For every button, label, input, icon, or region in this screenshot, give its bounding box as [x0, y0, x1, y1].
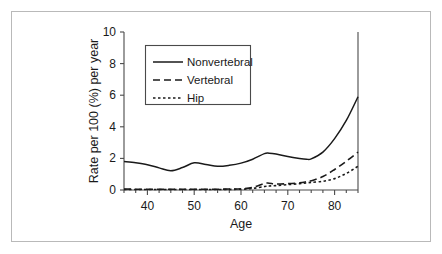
- figure-root: 0246810 4050607080 Rate per 100 (%) per …: [0, 0, 442, 254]
- series-line-hip: [124, 166, 358, 189]
- y-tick-label: 10: [103, 25, 117, 39]
- line-chart: 0246810 4050607080 Rate per 100 (%) per …: [0, 0, 442, 254]
- x-tick-label: 40: [141, 199, 155, 213]
- x-tick-marks: [124, 190, 358, 195]
- x-tick-labels: 4050607080: [141, 199, 342, 213]
- y-tick-label: 6: [109, 88, 116, 102]
- x-tick-label: 60: [234, 199, 248, 213]
- y-tick-labels: 0246810: [103, 25, 117, 197]
- y-axis-title: Rate per 100 (%) per year: [87, 39, 101, 184]
- y-tick-marks: [120, 32, 124, 190]
- series-lines: [124, 97, 358, 190]
- y-tick-label: 4: [109, 120, 116, 134]
- legend-label-nonvertebral: Nonvertebral: [187, 56, 253, 68]
- chart-legend: NonvertebralVertebralHip: [146, 46, 253, 105]
- series-line-nonvertebral: [124, 97, 358, 171]
- series-line-vertebral: [124, 152, 358, 189]
- y-tick-label: 0: [109, 183, 116, 197]
- y-tick-label: 8: [109, 57, 116, 71]
- x-tick-label: 80: [328, 199, 342, 213]
- legend-label-vertebral: Vertebral: [187, 74, 233, 86]
- x-tick-label: 70: [281, 199, 295, 213]
- legend-label-hip: Hip: [187, 92, 204, 104]
- x-axis-title: Age: [230, 217, 252, 231]
- x-tick-label: 50: [188, 199, 202, 213]
- y-tick-label: 2: [109, 151, 116, 165]
